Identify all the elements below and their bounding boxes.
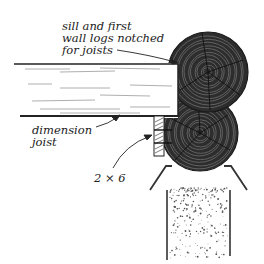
concrete-speck xyxy=(206,231,207,232)
concrete-speck xyxy=(187,204,189,206)
concrete-speck xyxy=(172,195,173,196)
concrete-speck xyxy=(216,251,217,252)
concrete-speck xyxy=(173,224,175,226)
concrete-speck xyxy=(191,204,193,206)
concrete-speck xyxy=(209,204,210,205)
concrete-speck xyxy=(174,223,175,224)
concrete-speck xyxy=(210,215,212,217)
concrete-speck xyxy=(211,235,213,237)
concrete-speck xyxy=(175,249,176,250)
concrete-speck xyxy=(208,256,209,257)
concrete-speck xyxy=(204,226,205,227)
concrete-speck xyxy=(218,203,219,204)
concrete-speck xyxy=(195,210,196,211)
concrete-speck xyxy=(181,201,182,202)
sill-logs-label: sill and first wall logs notched for joi… xyxy=(62,20,164,56)
concrete-speck xyxy=(173,232,174,233)
concrete-speck xyxy=(202,210,203,211)
concrete-speck xyxy=(224,208,226,210)
concrete-speck xyxy=(193,195,194,196)
concrete-speck xyxy=(190,189,191,190)
dimension-joist xyxy=(0,63,178,118)
concrete-speck xyxy=(192,218,194,220)
concrete-speck xyxy=(198,204,200,206)
concrete-speck xyxy=(183,198,184,199)
concrete-speck xyxy=(209,214,210,215)
concrete-speck xyxy=(205,195,206,196)
concrete-speck xyxy=(227,235,228,236)
concrete-speck xyxy=(223,191,224,192)
concrete-speck xyxy=(198,233,199,234)
concrete-speck xyxy=(218,231,220,233)
concrete-speck xyxy=(183,200,185,202)
concrete-speck xyxy=(196,231,197,232)
concrete-speck xyxy=(220,206,222,208)
concrete-speck xyxy=(190,191,191,192)
concrete-speck xyxy=(200,231,201,232)
concrete-speck xyxy=(179,195,180,196)
concrete-speck xyxy=(223,254,225,256)
concrete-speck xyxy=(176,190,177,191)
concrete-speck xyxy=(202,227,204,229)
concrete-speck xyxy=(190,196,191,197)
concrete-speck xyxy=(225,240,226,241)
concrete-speck xyxy=(206,189,208,191)
concrete-speck xyxy=(205,188,206,189)
concrete-speck xyxy=(176,247,177,248)
concrete-speck xyxy=(208,201,209,202)
concrete-speck xyxy=(218,240,219,241)
concrete-speck xyxy=(214,196,216,198)
concrete-speck xyxy=(191,188,192,189)
concrete-speck xyxy=(207,215,208,216)
concrete-speck xyxy=(195,256,196,257)
concrete-speck xyxy=(226,187,227,188)
concrete-speck xyxy=(194,189,195,190)
concrete-speck xyxy=(179,225,180,226)
concrete-speck xyxy=(170,252,171,253)
concrete-speck xyxy=(186,210,187,211)
concrete-speck xyxy=(225,224,227,226)
concrete-speck xyxy=(215,253,217,255)
concrete-speck xyxy=(204,189,205,190)
concrete-speck xyxy=(223,225,224,226)
concrete-speck xyxy=(217,204,218,205)
concrete-speck xyxy=(193,211,195,213)
concrete-speck xyxy=(226,200,228,202)
concrete-speck xyxy=(199,253,200,254)
concrete-speck xyxy=(182,189,183,190)
concrete-speck xyxy=(192,194,193,195)
concrete-speck xyxy=(191,206,192,207)
concrete-speck xyxy=(197,256,199,258)
concrete-speck xyxy=(174,211,175,212)
concrete-speck xyxy=(184,220,185,221)
concrete-speck xyxy=(221,190,223,192)
concrete-speck xyxy=(197,189,198,190)
concrete-speck xyxy=(224,245,225,246)
dimension-joist-label: dimension joist xyxy=(32,124,92,148)
concrete-speck xyxy=(179,189,180,190)
concrete-speck xyxy=(180,239,181,240)
concrete-speck xyxy=(205,253,206,254)
concrete-speck xyxy=(201,220,202,221)
concrete-speck xyxy=(180,255,181,256)
concrete-speck xyxy=(198,224,199,225)
concrete-speck xyxy=(212,189,213,190)
concrete-speck xyxy=(177,223,178,224)
concrete-speck xyxy=(207,217,208,218)
concrete-speck xyxy=(178,191,179,192)
concrete-speck xyxy=(170,257,171,258)
concrete-speck xyxy=(209,194,210,195)
concrete-speck xyxy=(195,243,196,244)
concrete-speck xyxy=(209,247,211,249)
concrete-speck xyxy=(178,208,179,209)
concrete-speck xyxy=(210,235,211,236)
concrete-speck xyxy=(174,189,175,190)
concrete-speck xyxy=(185,191,186,192)
concrete-speck xyxy=(185,256,186,257)
concrete-speck xyxy=(169,197,170,198)
concrete-speck xyxy=(184,188,185,189)
concrete-speck xyxy=(222,211,224,213)
concrete-speck xyxy=(209,192,210,193)
concrete-speck xyxy=(200,213,202,215)
concrete-speck xyxy=(202,200,203,201)
